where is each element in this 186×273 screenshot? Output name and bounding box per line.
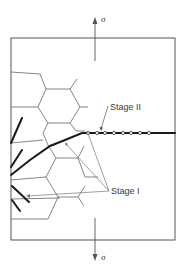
stage-one-arrowheads: [26, 142, 68, 198]
stage-one-leaders: [28, 131, 109, 196]
stage-two-leader: [100, 106, 109, 131]
specimen-frame: [11, 38, 175, 240]
slip-crack-3: [12, 186, 29, 202]
fatigue-crack-diagram: σ σ: [0, 0, 186, 273]
slip-crack-1: [11, 118, 22, 143]
stress-arrow-top: [93, 17, 98, 61]
main-crack: [11, 133, 175, 175]
stage-two-label: Stage II: [110, 102, 141, 112]
stress-label-bottom: σ: [101, 252, 106, 262]
stage-one-label: Stage I: [111, 186, 140, 196]
slip-crack-4: [12, 200, 20, 211]
slip-crack-2: [11, 150, 22, 167]
stress-label-top: σ: [101, 14, 106, 24]
